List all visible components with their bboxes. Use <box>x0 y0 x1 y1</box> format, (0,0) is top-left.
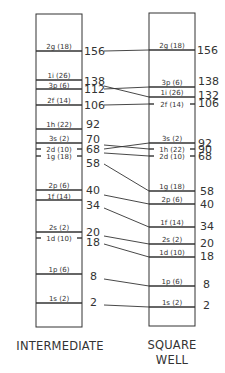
magic-number: 8 <box>203 278 210 291</box>
magic-number: 58 <box>200 185 214 198</box>
level-label: 3p (6) <box>161 79 182 87</box>
magic-number: 34 <box>200 220 214 233</box>
level-label: 1h (22) <box>46 121 72 129</box>
level-label: 2f (14) <box>47 97 71 105</box>
shell-model-diagram: 2g (18) 1i (26) 3p (6) 2f (14) 1h (22) 3… <box>0 0 225 373</box>
magic-number: 20 <box>200 237 214 250</box>
level-label: 2p (6) <box>161 196 182 204</box>
magic-number: 92 <box>86 118 100 131</box>
magic-number: 106 <box>84 99 105 112</box>
level-label: 1i (26) <box>48 72 71 80</box>
correlation-lines <box>104 50 149 307</box>
level-label: 2f (14) <box>160 101 184 109</box>
magic-number: 18 <box>86 236 100 249</box>
magic-number: 68 <box>198 150 212 163</box>
magic-number: 40 <box>200 198 214 211</box>
magic-number: 2 <box>90 296 97 309</box>
level-label: 1s (2) <box>162 299 183 307</box>
magic-number: 106 <box>198 97 219 110</box>
magic-number: 8 <box>90 270 97 283</box>
level-label: 2s (2) <box>162 236 183 244</box>
magic-number: 34 <box>86 199 100 212</box>
level-label: 2g (18) <box>46 43 72 51</box>
magic-number: 18 <box>200 250 214 263</box>
magic-number: 112 <box>84 83 105 96</box>
level-label: 1f (14) <box>47 193 71 201</box>
magic-number: 156 <box>84 45 105 58</box>
level-label: 1g (18) <box>159 183 185 191</box>
intermediate-magic-numbers: 156 138 112 106 92 70 68 58 40 34 20 18 … <box>84 45 105 309</box>
magic-number: 156 <box>197 44 218 57</box>
square-well-title-line2: WELL <box>156 353 189 367</box>
intermediate-box <box>36 14 82 327</box>
level-label: 2g (18) <box>159 42 185 50</box>
square-well-level-labels: 2g (18) 1i (26) 3p (6) 2f (14) 1h (22) 3… <box>159 42 185 307</box>
magic-number: 138 <box>198 75 219 88</box>
intermediate-title: INTERMEDIATE <box>16 339 103 353</box>
level-label: 2s (2) <box>49 224 70 232</box>
level-label: 3s (2) <box>162 135 183 143</box>
level-label: 1i (26) <box>161 89 184 97</box>
level-label: 2p (6) <box>48 182 69 190</box>
level-label: 3s (2) <box>49 135 70 143</box>
magic-number: 58 <box>86 157 100 170</box>
level-label: 1p (6) <box>48 266 69 274</box>
level-label: 1p (6) <box>161 278 182 286</box>
magic-number: 68 <box>86 143 100 156</box>
magic-number: 40 <box>86 184 100 197</box>
level-label: 1d (10) <box>46 235 72 243</box>
level-label: 3p (6) <box>48 82 69 90</box>
level-label: 1g (18) <box>46 153 72 161</box>
level-label: 1s (2) <box>49 295 70 303</box>
square-well-title-line1: SQUARE <box>147 338 196 352</box>
magic-number: 2 <box>203 299 210 312</box>
square-well-magic-numbers: 156 138 132 106 92 90 68 58 40 34 20 18 … <box>197 44 219 312</box>
intermediate-level-labels: 2g (18) 1i (26) 3p (6) 2f (14) 1h (22) 3… <box>46 43 72 303</box>
level-label: 1d (10) <box>159 249 185 257</box>
level-label: 1f (14) <box>160 219 184 227</box>
level-label: 2d (10) <box>159 153 185 161</box>
